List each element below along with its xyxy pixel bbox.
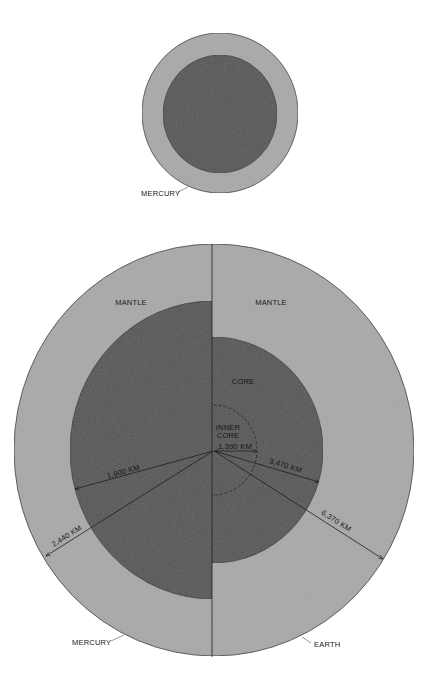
small-mercury-diagram: MERCURY — [141, 33, 298, 198]
small-mercury-core — [163, 55, 277, 173]
mercury-planet-label: MERCURY — [72, 638, 111, 647]
earth-inner-core-label-line2: CORE — [217, 431, 239, 440]
earth-inner-core-radius-label: 1,390 KM — [218, 442, 252, 451]
earth-mantle-label: MANTLE — [255, 298, 287, 307]
comparison-diagram: MANTLE MANTLE CORE INNER CORE 1,390 KM 1… — [14, 244, 414, 657]
earth-planet-label: EARTH — [314, 640, 340, 649]
small-mercury-label: MERCURY — [141, 189, 180, 198]
earth-core-label: CORE — [232, 377, 254, 386]
mercury-leader-line — [111, 635, 124, 641]
mercury-mantle-label: MANTLE — [115, 298, 147, 307]
planet-interior-comparison-diagram: MERCURY MANTLE MANTLE CORE INNER CORE 1,… — [0, 0, 448, 687]
earth-leader-line — [302, 637, 311, 643]
